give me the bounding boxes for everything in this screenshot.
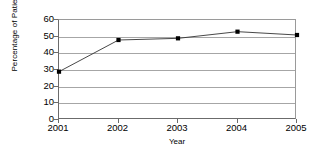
y-tick-label: 40 — [20, 47, 54, 57]
series-markers — [57, 30, 299, 74]
y-tick-label: 30 — [20, 64, 54, 74]
data-point-marker — [57, 70, 61, 74]
data-point-marker — [116, 38, 120, 42]
line-chart-figure: Percentage of Patients 0102030405060 200… — [0, 0, 320, 154]
x-tick-label: 2001 — [38, 123, 78, 133]
x-axis-title: Year — [58, 137, 296, 146]
data-point-marker — [176, 36, 180, 40]
data-series-line — [59, 20, 297, 120]
x-tick-mark — [58, 119, 59, 123]
y-tick-label: 20 — [20, 81, 54, 91]
x-tick-label: 2002 — [98, 123, 138, 133]
x-tick-mark — [296, 119, 297, 123]
x-tick-mark — [177, 119, 178, 123]
x-tick-label: 2003 — [157, 123, 197, 133]
y-tick-label: 10 — [20, 97, 54, 107]
data-point-marker — [295, 33, 299, 37]
data-point-marker — [235, 30, 239, 34]
y-tick-label: 60 — [20, 14, 54, 24]
x-tick-label: 2004 — [217, 123, 257, 133]
x-tick-label: 2005 — [276, 123, 316, 133]
plot-area — [58, 19, 296, 119]
x-tick-mark — [118, 119, 119, 123]
x-tick-mark — [237, 119, 238, 123]
y-tick-label: 50 — [20, 31, 54, 41]
